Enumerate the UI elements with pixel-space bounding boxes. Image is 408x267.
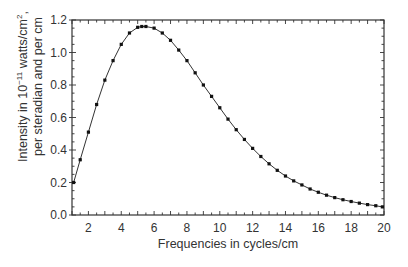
data-point-marker (79, 158, 82, 161)
data-point-marker (341, 198, 344, 201)
y-axis-label-line1: Intensity in 10−11 watts/cm2, (12, 0, 31, 220)
data-point-marker (243, 138, 246, 141)
data-point-marker (325, 194, 328, 197)
x-tick-label: 16 (312, 221, 326, 235)
data-point-marker (317, 191, 320, 194)
ylabel-unit: watts/cm (16, 19, 30, 72)
data-point-marker (292, 179, 295, 182)
data-point-marker (300, 183, 303, 186)
x-tick-label: 6 (151, 221, 158, 235)
data-point-marker (87, 131, 90, 134)
data-point-marker (210, 95, 213, 98)
data-point-marker (144, 25, 147, 28)
x-tick-label: 14 (279, 221, 293, 235)
data-point-marker (251, 147, 254, 150)
data-point-marker (120, 43, 123, 46)
data-point-marker (95, 103, 98, 106)
data-point-marker (194, 71, 197, 74)
ylabel-exponent: −11 (15, 72, 24, 85)
data-point-marker (309, 187, 312, 190)
data-point-marker (284, 174, 287, 177)
data-point-marker (366, 203, 369, 206)
data-point-marker (202, 83, 205, 86)
y-axis-label-line2: per steradian and per cm (31, 0, 46, 220)
x-tick-label: 18 (344, 221, 358, 235)
data-point-marker (374, 204, 377, 207)
ylabel-text: Intensity in 10 (16, 85, 30, 162)
data-point-marker (358, 202, 361, 205)
data-point-marker (276, 169, 279, 172)
data-point-marker (72, 181, 75, 184)
tick-labels: 24681012141618200.00.20.40.60.81.01.2 (50, 13, 391, 235)
ylabel-unit-exponent: 2 (15, 15, 24, 19)
data-point-marker (140, 25, 143, 28)
x-tick-label: 20 (377, 221, 391, 235)
data-point-marker (111, 59, 114, 62)
ylabel-comma: , (16, 11, 30, 14)
data-point-marker (333, 196, 336, 199)
data-point-marker (350, 200, 353, 203)
data-series (72, 25, 384, 209)
x-tick-label: 4 (118, 221, 125, 235)
data-point-marker (136, 26, 139, 29)
data-point-marker (169, 39, 172, 42)
series-line (74, 27, 383, 207)
x-tick-label: 8 (184, 221, 191, 235)
data-point-marker (103, 79, 106, 82)
data-point-marker (153, 27, 156, 30)
data-point-marker (259, 155, 262, 158)
data-point-marker (161, 31, 164, 34)
data-point-marker (381, 205, 384, 208)
data-point-marker (267, 162, 270, 165)
data-point-marker (177, 48, 180, 51)
x-tick-label: 12 (246, 221, 260, 235)
x-tick-label: 10 (213, 221, 227, 235)
data-point-marker (185, 59, 188, 62)
data-point-marker (218, 106, 221, 109)
x-tick-label: 2 (85, 221, 92, 235)
x-axis-label: Frequencies in cycles/cm (72, 237, 384, 251)
y-axis-label: Intensity in 10−11 watts/cm2, per sterad… (12, 0, 72, 220)
data-point-marker (226, 118, 229, 121)
data-point-marker (235, 128, 238, 131)
data-point-marker (128, 31, 131, 34)
